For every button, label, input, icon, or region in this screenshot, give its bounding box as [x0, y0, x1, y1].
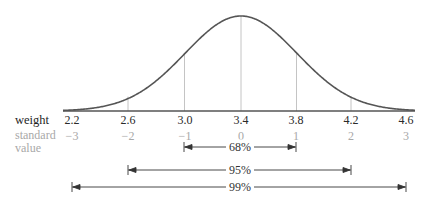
weight-tick: 4.2 — [344, 113, 359, 128]
normal-curve — [63, 16, 415, 110]
interval-68-label: 68% — [226, 140, 254, 155]
weight-row-label: weight — [15, 113, 49, 128]
standard-tick: 2 — [348, 129, 354, 144]
sd-gridlines — [128, 16, 351, 111]
weight-tick: 3.4 — [234, 113, 249, 128]
weight-tick: 2.6 — [121, 113, 136, 128]
standard-tick: −1 — [179, 129, 192, 144]
standard-tick: −3 — [66, 129, 79, 144]
weight-tick: 2.2 — [65, 113, 80, 128]
interval-95-label: 95% — [226, 163, 254, 178]
weight-tick: 3.0 — [178, 113, 193, 128]
weight-tick: 3.8 — [289, 113, 304, 128]
standard-tick: 1 — [293, 129, 299, 144]
value-row-label: value — [15, 142, 41, 155]
standard-tick: −2 — [122, 129, 135, 144]
standard-tick: 3 — [403, 129, 409, 144]
weight-tick: 4.6 — [399, 113, 414, 128]
bell-curve-diagram — [0, 0, 427, 204]
interval-99-label: 99% — [226, 180, 254, 195]
